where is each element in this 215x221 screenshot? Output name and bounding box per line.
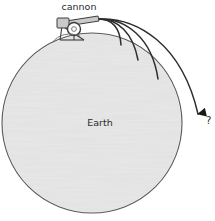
cannon-label: cannon: [62, 1, 97, 12]
diagram-canvas: Earth ?: [0, 0, 215, 221]
cannon-wheel: [68, 23, 81, 36]
cannon-breech-block: [57, 18, 69, 28]
newtons-cannonball-figure: Earth ?: [0, 0, 215, 221]
question-mark-label: ?: [206, 115, 211, 126]
earth-group: Earth: [2, 33, 182, 213]
earth-label: Earth: [87, 117, 112, 128]
